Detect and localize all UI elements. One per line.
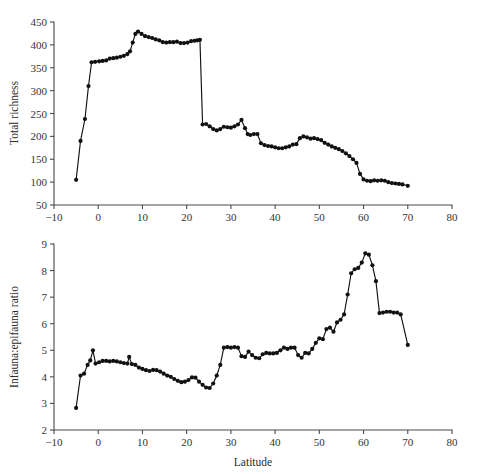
bottom-panel-data-point (360, 261, 364, 265)
bottom-panel-data-point (108, 359, 112, 363)
bottom-panel-data-point (144, 368, 148, 372)
top-panel-data-point (344, 151, 348, 155)
bottom-panel-spine (54, 244, 452, 430)
top-panel-data-point (406, 184, 410, 188)
top-panel-tick-labels: 50100150200250300350400450−1001020304050… (31, 16, 459, 223)
top-panel-data-point (400, 182, 404, 186)
top-panel-y-tick-label: 400 (31, 39, 48, 51)
top-panel-data-point (326, 143, 330, 147)
top-panel-data-point (147, 35, 151, 39)
top-panel-data-point (93, 60, 97, 64)
bottom-panel-data-point (346, 292, 350, 296)
top-panel-data-point (323, 141, 327, 145)
bottom-panel-data-point (122, 361, 126, 365)
top-panel-data-point (291, 143, 295, 147)
bottom-panel-data-line (76, 253, 408, 408)
bottom-panel-data-point (310, 347, 314, 351)
top-panel-data-point (208, 124, 212, 128)
bottom-panel-data-point (130, 362, 134, 366)
bottom-panel-data-point (169, 375, 173, 379)
bottom-panel-data-point (406, 343, 410, 347)
top-panel-data-point (284, 145, 288, 149)
bottom-panel-data-point (222, 346, 226, 350)
bottom-panel-data-point (208, 386, 212, 390)
bottom-panel-data-point (229, 346, 233, 350)
top-panel-data-point (372, 178, 376, 182)
bottom-panel-x-tick-label: 80 (447, 436, 459, 448)
top-panel-data-point (108, 57, 112, 61)
bottom-panel-data-point (246, 350, 250, 354)
top-panel-data-point (83, 117, 87, 121)
bottom-panel-x-tick-label: 40 (270, 436, 282, 448)
bottom-panel-data-point (225, 345, 229, 349)
top-panel-data-point (131, 40, 135, 44)
bottom-panel: 23456789−1001020304050607080 Infauna:epi… (8, 238, 458, 468)
top-panel-data-point (157, 38, 161, 42)
bottom-panel-y-tick-label: 4 (42, 371, 48, 383)
top-panel-data-point (198, 38, 202, 42)
top-panel-data-point (118, 55, 122, 59)
top-panel-data-point (104, 58, 108, 62)
bottom-panel-data-point (111, 359, 115, 363)
top-panel-data-point (340, 149, 344, 153)
top-panel-data-point (369, 179, 373, 183)
bottom-panel-data-point (264, 351, 268, 355)
bottom-panel-x-tick-label: 30 (225, 436, 237, 448)
top-panel-data-point (171, 40, 175, 44)
top-panel-data-point (351, 157, 355, 161)
top-panel-data-point (86, 84, 90, 88)
bottom-panel-data-point (367, 253, 371, 257)
bottom-panel-data-point (91, 348, 95, 352)
bottom-panel-data-point (74, 406, 78, 410)
top-panel-y-axis-title: Total richness (8, 80, 20, 145)
top-panel-data-point (319, 138, 323, 142)
figure-container: 50100150200250300350400450−1001020304050… (0, 0, 482, 474)
bottom-panel-x-tick-label: 10 (137, 436, 149, 448)
bottom-panel-data-point (193, 376, 197, 380)
bottom-panel-data-point (215, 373, 219, 377)
top-panel-data-point (262, 143, 266, 147)
top-panel-data-point (390, 181, 394, 185)
top-panel-data-point (101, 59, 105, 63)
bottom-panel-data-point (88, 358, 92, 362)
top-panel-data-point (294, 142, 298, 146)
bottom-panel-data-point (271, 351, 275, 355)
bottom-panel-data-point (172, 377, 176, 381)
top-panel-data-point (347, 154, 351, 158)
bottom-panel-data-point (388, 310, 392, 314)
top-panel-data-point (354, 161, 358, 165)
top-panel-data-point (115, 56, 119, 60)
bottom-panel-data-point (328, 326, 332, 330)
bottom-panel-data-point (250, 353, 254, 357)
top-panel-data-point (182, 41, 186, 45)
bottom-panel-data-point (211, 381, 215, 385)
top-panel-data-point (280, 146, 284, 150)
top-panel-data-point (78, 139, 82, 143)
top-panel-data-point (97, 59, 101, 63)
bottom-panel-data-point (197, 380, 201, 384)
bottom-panel-data-point (204, 385, 208, 389)
top-panel-data-point (273, 145, 277, 149)
bottom-panel-data-point (338, 318, 342, 322)
top-panel-data-point (365, 179, 369, 183)
bottom-panel-axes (50, 244, 452, 434)
top-panel-series (74, 30, 410, 188)
top-panel-data-point (161, 40, 165, 44)
bottom-panel-data-point (381, 310, 385, 314)
top-panel-data-point (236, 122, 240, 126)
bottom-panel-x-tick-label: 0 (95, 436, 101, 448)
top-panel: 50100150200250300350400450−1001020304050… (8, 16, 458, 223)
top-panel-data-point (358, 172, 362, 176)
bottom-panel-data-point (278, 348, 282, 352)
top-panel-data-point (379, 178, 383, 182)
top-panel-data-point (315, 137, 319, 141)
top-panel-data-point (136, 30, 140, 34)
top-panel-x-tick-label: −10 (45, 211, 63, 223)
top-panel-x-tick-label: 30 (225, 211, 237, 223)
top-panel-data-point (393, 181, 397, 185)
top-panel-x-tick-label: 10 (137, 211, 149, 223)
bottom-panel-data-point (300, 356, 304, 360)
top-panel-data-point (259, 141, 263, 145)
bottom-panel-data-point (232, 345, 236, 349)
top-panel-data-point (266, 144, 270, 148)
